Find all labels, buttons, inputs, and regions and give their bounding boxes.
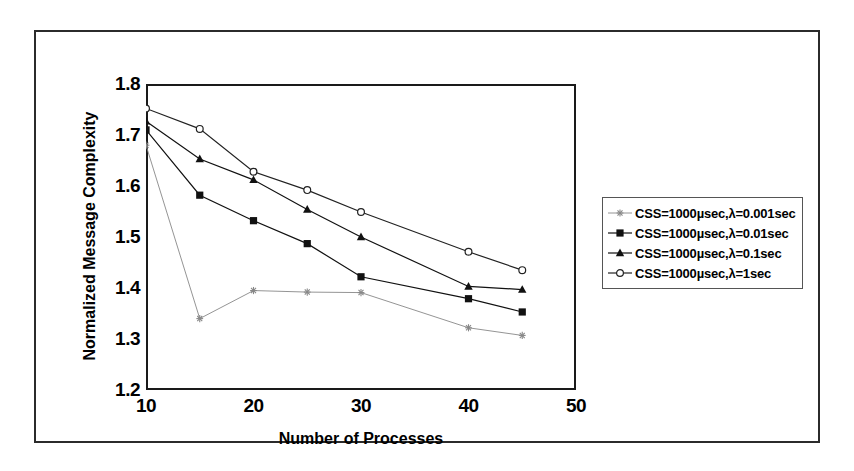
data-point-open-circle (465, 248, 472, 255)
series-3 (146, 105, 526, 273)
data-point-filled-square (519, 308, 526, 315)
data-point-filled-triangle (146, 117, 150, 125)
legend-item: CSS=1000µsec,λ=0.1sec (607, 243, 795, 263)
data-point-filled-square (357, 273, 364, 280)
data-point-filled-square (616, 229, 623, 236)
data-point-filled-square (250, 217, 257, 224)
series-0 (146, 142, 526, 339)
x-tick-label: 30 (331, 396, 391, 415)
data-point-filled-triangle (357, 233, 365, 241)
legend-item: CSS=1000µsec,λ=1sec (607, 263, 795, 283)
data-point-star (465, 324, 472, 331)
legend-marker-star (607, 205, 633, 221)
y-axis-title: Normalized Message Complexity (81, 96, 99, 376)
data-point-filled-square (146, 126, 150, 133)
data-point-filled-square (196, 192, 203, 199)
data-point-filled-square (304, 240, 311, 247)
legend-item-label: CSS=1000µsec,λ=0.001sec (633, 206, 795, 221)
x-tick-label: 20 (224, 396, 284, 415)
legend-item-label: CSS=1000µsec,λ=0.1sec (633, 246, 781, 261)
y-tick-label: 1.7 (92, 125, 140, 144)
series-2 (146, 117, 526, 293)
y-tick-label: 1.4 (92, 278, 140, 297)
data-point-open-circle (196, 125, 203, 132)
figure-root: 1.21.31.41.51.61.71.8 1020304050 Normali… (0, 0, 854, 471)
data-point-filled-square (465, 295, 472, 302)
data-point-star (196, 315, 203, 322)
data-point-star (146, 142, 149, 149)
chart-legend: CSS=1000µsec,λ=0.001secCSS=1000µsec,λ=0.… (602, 197, 803, 289)
data-point-filled-triangle (464, 282, 472, 290)
plot-series-canvas (146, 84, 576, 390)
legend-marker-filled-triangle (607, 245, 633, 261)
data-point-open-circle (358, 209, 365, 216)
y-tick-label: 1.8 (92, 74, 140, 93)
data-point-star (304, 288, 311, 295)
data-point-star (519, 332, 526, 339)
legend-item: CSS=1000µsec,λ=0.001sec (607, 203, 795, 223)
x-axis-title: Number of Processes (146, 430, 576, 448)
data-point-open-circle (519, 267, 526, 274)
x-axis-tick-labels: 1020304050 (36, 396, 854, 426)
x-tick-label: 50 (546, 396, 606, 415)
legend-marker-open-circle (607, 265, 633, 281)
legend-item: CSS=1000µsec,λ=0.01sec (607, 223, 795, 243)
data-point-open-circle (304, 187, 311, 194)
x-tick-label: 10 (116, 396, 176, 415)
x-tick-label: 40 (439, 396, 499, 415)
data-point-filled-triangle (196, 155, 204, 163)
y-tick-label: 1.5 (92, 227, 140, 246)
data-point-open-circle (617, 270, 624, 277)
data-point-filled-triangle (303, 205, 311, 213)
y-tick-label: 1.6 (92, 176, 140, 195)
series-line (146, 108, 522, 270)
data-point-star (617, 209, 624, 216)
data-point-star (250, 287, 257, 294)
series-line (146, 121, 522, 289)
legend-item-label: CSS=1000µsec,λ=1sec (633, 266, 771, 281)
legend-marker-filled-square (607, 225, 633, 241)
series-line (146, 145, 522, 335)
figure-border: 1.21.31.41.51.61.71.8 1020304050 Normali… (34, 30, 820, 443)
legend-item-label: CSS=1000µsec,λ=0.01sec (633, 226, 788, 241)
data-point-star (358, 289, 365, 296)
data-point-open-circle (146, 105, 149, 112)
data-point-open-circle (250, 168, 257, 175)
y-tick-label: 1.3 (92, 329, 140, 348)
